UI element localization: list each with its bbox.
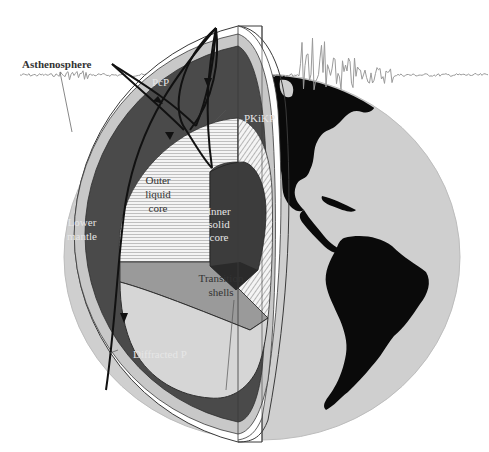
label-lower-mantle-2: mantle	[67, 230, 97, 242]
label-inner-core-1: Inner	[207, 205, 231, 217]
label-diffracted-p: Diffracted P	[133, 348, 187, 360]
label-transition-shells-2: shells	[208, 286, 233, 298]
label-inner-core-2: solid	[208, 218, 230, 230]
label-outer-core-3: core	[149, 202, 168, 214]
label-outer-core-2: liquid	[145, 188, 171, 200]
label-transition-shells-1: Transition	[199, 272, 244, 284]
label-pkikp: PKiKP	[244, 112, 275, 124]
earth-interior-diagram: Asthenosphere PcP PKiKP Outer liquid cor…	[0, 0, 489, 452]
label-lower-mantle-1: Lower	[68, 216, 97, 228]
label-inner-core-3: core	[210, 231, 229, 243]
label-outer-core-1: Outer	[145, 174, 170, 186]
label-asthenosphere: Asthenosphere	[22, 58, 92, 70]
label-pcp: PcP	[152, 76, 169, 88]
